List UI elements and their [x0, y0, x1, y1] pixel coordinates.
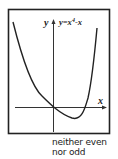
graph-frame [9, 10, 110, 134]
function-graph-figure: y y=x4-x x neither even nor odd [0, 0, 118, 159]
x-axis-label: x [97, 95, 103, 106]
y-axis-label: y [43, 17, 49, 28]
caption: neither even nor odd [52, 137, 118, 157]
x-axis-arrow-icon [102, 106, 107, 110]
equation-label: y=x4-x [58, 17, 83, 27]
caption-line-2: nor odd [52, 147, 118, 157]
caption-line-1: neither even [52, 137, 118, 147]
graph-canvas: y y=x4-x x [0, 0, 118, 159]
function-curve [13, 22, 97, 118]
y-axis-arrow-icon [52, 19, 56, 24]
